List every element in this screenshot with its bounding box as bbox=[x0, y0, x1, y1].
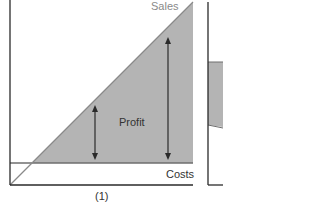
costs-label: Costs bbox=[166, 168, 194, 180]
panel-label: (1) bbox=[95, 190, 108, 202]
second-panel-partial bbox=[208, 2, 223, 185]
sales-label: Sales bbox=[151, 0, 179, 12]
profit-label: Profit bbox=[119, 116, 145, 128]
